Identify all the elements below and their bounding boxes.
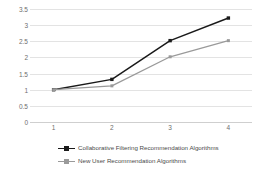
series-layer [30, 9, 252, 122]
y-tick-label: 1 [2, 86, 28, 93]
x-axis-line [30, 122, 252, 123]
series-line [54, 18, 229, 90]
series-line [54, 41, 229, 90]
data-point-marker [110, 78, 113, 81]
x-axis-tick-labels: 1234 [30, 124, 252, 136]
plot-area [30, 9, 252, 122]
data-point-marker [110, 84, 113, 87]
legend-item[interactable]: Collaborative Filtering Recommendation A… [58, 142, 258, 154]
data-point-marker [169, 55, 172, 58]
x-tick-label: 2 [110, 124, 114, 132]
line-chart: 00.511.522.533.5 1234 Collaborative Filt… [0, 0, 266, 175]
y-tick-label: 2.5 [2, 38, 28, 45]
x-tick-label: 1 [52, 124, 56, 132]
x-tick-label: 3 [168, 124, 172, 132]
legend-label: Collaborative Filtering Recommendation A… [78, 144, 219, 152]
data-point-marker [52, 88, 55, 91]
series-2 [52, 39, 230, 91]
y-tick-label: 1.5 [2, 70, 28, 77]
series-1 [52, 16, 230, 91]
y-tick-label: 2 [2, 54, 28, 61]
y-tick-label: 0.5 [2, 102, 28, 109]
y-axis-tick-labels: 00.511.522.533.5 [0, 9, 28, 122]
y-tick-label: 0 [2, 119, 28, 126]
y-tick-label: 3.5 [2, 6, 28, 13]
legend-swatch-icon [58, 144, 75, 153]
legend-marker [64, 159, 69, 164]
x-tick-label: 4 [227, 124, 231, 132]
legend-swatch-icon [58, 157, 75, 166]
y-tick-label: 3 [2, 22, 28, 29]
data-point-marker [227, 39, 230, 42]
legend-item[interactable]: New User Recommendation Algorithms [58, 155, 258, 167]
data-point-marker [227, 16, 230, 19]
data-point-marker [168, 39, 171, 42]
legend-label: New User Recommendation Algorithms [78, 157, 186, 165]
legend-marker [64, 146, 69, 151]
chart-legend: Collaborative Filtering Recommendation A… [58, 142, 258, 168]
